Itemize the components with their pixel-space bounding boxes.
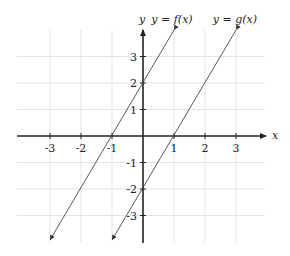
x-tick-label: -1 <box>107 142 118 155</box>
f-label: y = f(x) <box>150 13 192 26</box>
coordinate-plane: -3 -2 -1 1 2 3 3 2 1 -1 -2 -3 x y y = f(… <box>0 0 290 256</box>
x-tick-label: 3 <box>233 142 240 155</box>
y-tick-label: 1 <box>130 104 137 117</box>
y-tick-label: 3 <box>130 51 137 64</box>
x-tick-label: -3 <box>45 142 56 155</box>
y-axis-label: y <box>138 13 146 26</box>
x-tick-label: 1 <box>171 142 178 155</box>
g-label: y = g(x) <box>212 13 257 26</box>
y-tick-label: 2 <box>130 77 137 90</box>
y-tick-label: -3 <box>126 210 137 223</box>
x-tick-label: -2 <box>76 142 87 155</box>
x-axis-label: x <box>272 129 279 142</box>
y-tick-label: -1 <box>126 157 137 170</box>
x-tick-label: 2 <box>202 142 209 155</box>
y-tick-label: -2 <box>126 183 137 196</box>
